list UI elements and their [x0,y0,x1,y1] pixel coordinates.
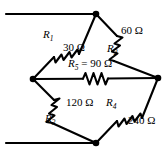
resistor-label-r3: R3 [45,113,55,127]
r2-symbol-letter: R [107,42,114,54]
wire-r2-to-right [114,61,158,78]
wire-top-to-r2 [96,14,117,36]
resistor-value-r4: 240 Ω [128,115,155,126]
wire-bottom-to-r4 [96,121,117,143]
r5-resistor-zigzag [83,73,108,85]
node-dot-top [93,11,100,18]
node-dot-left [30,76,37,83]
node-dot-bottom [93,140,100,147]
wire-r4-to-right [142,78,158,118]
circuit-diagram-figure: R1 30 Ω R2 60 Ω R3 120 Ω R4 240 Ω R5 = 9… [0,0,168,159]
r3-symbol-letter: R [45,112,52,124]
wire-left-to-r3 [33,79,54,100]
resistor-label-r1: R1 [43,29,53,43]
resistor-value-r3: 120 Ω [66,97,93,108]
resistor-label-r4: R4 [106,97,116,111]
r4-symbol-subscript: 4 [113,102,117,111]
resistor-value-r1: 30 Ω [63,42,85,53]
r4-symbol-letter: R [106,96,113,108]
resistor-value-r2: 60 Ω [121,25,143,36]
r1-symbol-subscript: 1 [50,34,54,43]
resistor-label-r5: R5 = 90 Ω [68,58,112,72]
r1-symbol-letter: R [43,28,50,40]
r3-symbol-subscript: 3 [52,118,56,127]
node-dot-right [155,75,162,82]
r2-symbol-subscript: 2 [114,48,118,57]
wire-r3-to-bottom [52,123,96,143]
resistor-label-r2: R2 [107,43,117,57]
r5-value-equation: = 90 Ω [78,57,112,69]
r5-symbol-letter: R [68,57,75,69]
wire-left-to-r1 [33,57,54,79]
wire-r5-to-right [108,78,158,79]
